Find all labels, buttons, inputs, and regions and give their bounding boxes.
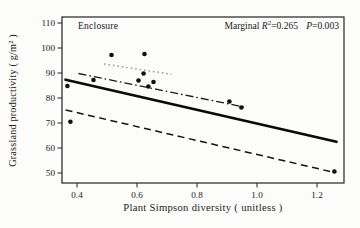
y-tick-label: 100 — [41, 43, 55, 53]
x-tick-label: 0.8 — [191, 190, 203, 200]
x-tick-label: 0.6 — [131, 190, 143, 200]
x-tick-label: 1.0 — [251, 190, 263, 200]
data-point — [239, 105, 244, 110]
r-value: =0.265 — [271, 20, 298, 31]
y-tick-label: 110 — [42, 18, 56, 28]
figure-enclosure-productivity-diversity: 0.40.60.81.01.25060708090100110 Enclosur… — [0, 0, 360, 228]
y-tick-label: 70 — [46, 118, 56, 128]
x-tick-label: 1.2 — [311, 190, 323, 200]
solid-overall-trend-line — [66, 80, 337, 142]
stats-prefix: Marginal — [224, 20, 261, 31]
data-point — [142, 52, 147, 57]
data-point — [65, 84, 70, 89]
dotted-trend-line — [104, 64, 172, 74]
chart-canvas: 0.40.60.81.01.25060708090100110 — [0, 0, 360, 228]
y-tick-label: 60 — [46, 143, 56, 153]
plot-frame — [62, 17, 344, 183]
data-point — [68, 119, 73, 124]
p-value: =0.003 — [312, 20, 339, 31]
data-point — [91, 78, 96, 83]
data-point — [332, 169, 337, 174]
data-point — [146, 84, 151, 89]
marginal-stats-label: Marginal R2=0.265P=0.003 — [224, 20, 339, 31]
data-point — [151, 80, 156, 85]
x-axis-label: Plant Simpson diversity ( unitless ) — [62, 202, 344, 213]
data-point — [136, 78, 141, 83]
data-point — [109, 53, 114, 58]
y-tick-label: 80 — [46, 93, 56, 103]
y-tick-label: 90 — [46, 68, 56, 78]
x-tick-label: 0.4 — [71, 190, 83, 200]
y-tick-label: 50 — [46, 168, 56, 178]
y-axis-label: Grassland productivity ( g/m² ) — [7, 11, 22, 191]
group-label: Enclosure — [78, 20, 118, 31]
data-point — [227, 99, 232, 104]
data-point — [141, 71, 146, 76]
dashed-trend-line — [66, 110, 334, 172]
